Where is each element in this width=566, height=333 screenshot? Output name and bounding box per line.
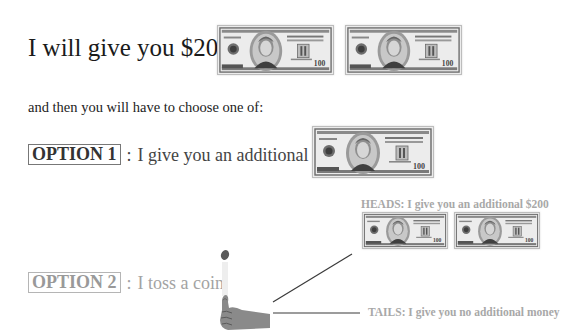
page-title: I will give you $200: (28, 34, 238, 62)
hundred-dollar-bill-icon (217, 25, 334, 75)
hundred-dollar-bill-icon (362, 212, 448, 249)
tails-outcome-label: TAILS: I give you no additional money (368, 305, 560, 319)
option-1[interactable]: OPTION 1 : I give you an additional $100… (28, 144, 354, 165)
option-1-badge: OPTION 1 (28, 144, 121, 165)
option-2[interactable]: OPTION 2 : I toss a coin (28, 272, 224, 293)
hundred-dollar-bill-icon (312, 126, 434, 178)
thumb-coin-toss-icon (212, 248, 274, 330)
heads-connector-line (273, 254, 352, 302)
hundred-dollar-bill-icon (454, 212, 540, 249)
instruction-text: and then you will have to choose one of: (28, 98, 263, 116)
hundred-dollar-bill-icon (345, 25, 462, 75)
option-1-separator: : (127, 145, 132, 165)
option-2-badge: OPTION 2 (28, 272, 121, 293)
option-2-separator: : (127, 273, 132, 293)
heads-outcome-label: HEADS: I give you an additional $200 (361, 197, 549, 211)
